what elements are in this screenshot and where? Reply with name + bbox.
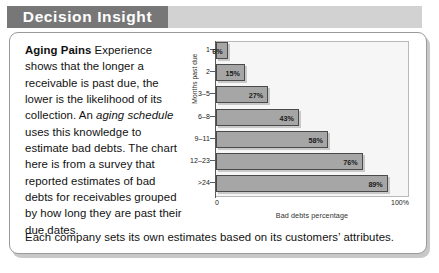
bar: 58% bbox=[216, 131, 328, 148]
bar-row: 215% bbox=[172, 63, 420, 81]
bar-row: 16% bbox=[172, 41, 420, 59]
page-title: Decision Insight bbox=[7, 6, 168, 28]
bar-category-label: 2 bbox=[172, 63, 210, 81]
bar-row: >2489% bbox=[172, 174, 420, 192]
insight-card: Aging Pains Experience shows that the lo… bbox=[9, 32, 427, 254]
insight-text-part2: uses this knowledge to estimate bad debt… bbox=[25, 126, 182, 236]
decision-insight-figure: Decision Insight Aging Pains Experience … bbox=[0, 0, 439, 273]
bar-row: 6–843% bbox=[172, 108, 420, 126]
bar-row: 12–2376% bbox=[172, 152, 420, 170]
y-axis-tick bbox=[210, 93, 215, 94]
insight-italic-term: aging schedule bbox=[96, 109, 173, 121]
bar: 89% bbox=[216, 175, 388, 192]
x-axis-ticks: 0 100% bbox=[172, 199, 420, 211]
bar-container: 89% bbox=[216, 175, 391, 192]
x-tick-min: 0 bbox=[210, 199, 224, 206]
bar-category-label: 12–23 bbox=[172, 152, 210, 170]
bar-category-label: 6–8 bbox=[172, 108, 210, 126]
bar-container: 43% bbox=[216, 109, 302, 126]
bar-value-label: 76% bbox=[343, 154, 357, 171]
bar-container: 6% bbox=[216, 42, 231, 59]
bar-container: 76% bbox=[216, 153, 366, 170]
bar-rows: 16%215%3–527%6–843%9–1158%12–2376%>2489% bbox=[172, 39, 420, 197]
bar-category-label: 9–11 bbox=[172, 130, 210, 148]
x-tick-max: 100% bbox=[386, 199, 414, 206]
bad-debts-bar-chart: Months past due 16%215%3–527%6–843%9–115… bbox=[172, 39, 420, 227]
x-axis-title: Bad debts percentage bbox=[215, 211, 409, 220]
bar-category-label: 1 bbox=[172, 41, 210, 59]
bar-category-label: >24 bbox=[172, 174, 210, 192]
bar: 6% bbox=[216, 42, 228, 59]
bar-value-label: 27% bbox=[249, 87, 263, 104]
bar-category-label: 3–5 bbox=[172, 85, 210, 103]
bar-row: 3–527% bbox=[172, 85, 420, 103]
bar: 76% bbox=[216, 153, 363, 170]
y-axis-tick bbox=[210, 182, 215, 183]
insight-paragraph: Aging Pains Experience shows that the lo… bbox=[25, 42, 185, 238]
insight-closing-line: Each company sets its own estimates base… bbox=[25, 229, 417, 245]
bar-container: 15% bbox=[216, 64, 248, 81]
y-axis-tick bbox=[210, 160, 215, 161]
bar-container: 58% bbox=[216, 131, 331, 148]
bar-value-label: 6% bbox=[212, 43, 222, 60]
insight-lead-in: Aging Pains bbox=[25, 44, 91, 56]
bar: 43% bbox=[216, 109, 299, 126]
bar: 27% bbox=[216, 86, 268, 103]
bar: 15% bbox=[216, 64, 245, 81]
bar-value-label: 58% bbox=[309, 132, 323, 149]
y-axis-tick bbox=[210, 71, 215, 72]
y-axis-tick bbox=[210, 138, 215, 139]
bar-value-label: 43% bbox=[280, 110, 294, 127]
bar-value-label: 15% bbox=[226, 65, 240, 82]
bar-container: 27% bbox=[216, 86, 271, 103]
bar-value-label: 89% bbox=[368, 176, 382, 193]
bar-row: 9–1158% bbox=[172, 130, 420, 148]
y-axis-tick bbox=[210, 116, 215, 117]
